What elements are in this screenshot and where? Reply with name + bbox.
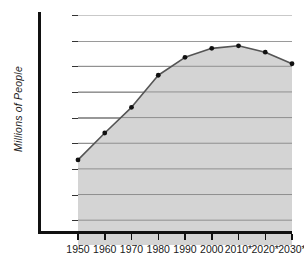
x-tick-mark-1970 bbox=[131, 234, 133, 240]
x-tick-mark-2020p bbox=[265, 234, 267, 240]
x-tick-mark-2010p bbox=[238, 234, 240, 240]
area-fill bbox=[78, 46, 292, 245]
x-tick-mark-1990 bbox=[184, 234, 186, 240]
y-axis-title: Millions of People bbox=[12, 39, 24, 179]
data-point-1980 bbox=[156, 73, 161, 78]
x-tick-mark-2000 bbox=[211, 234, 213, 240]
data-point-2010p bbox=[236, 43, 241, 48]
chart-screenshot: Millions of People 140130120110100908070… bbox=[0, 0, 304, 261]
x-axis-spine bbox=[38, 231, 292, 234]
x-tick-mark-1980 bbox=[158, 234, 160, 240]
y-axis-spine bbox=[38, 12, 41, 233]
data-point-1950 bbox=[76, 158, 81, 163]
x-tick-mark-1950 bbox=[77, 234, 79, 240]
data-point-2020p bbox=[263, 50, 268, 55]
plot-area: 14013012011010090807060 bbox=[40, 14, 292, 233]
x-tick-label-2030p: 2030* bbox=[272, 243, 304, 255]
data-point-1970 bbox=[129, 105, 134, 110]
x-tick-mark-1960 bbox=[104, 234, 106, 240]
data-point-2030p bbox=[290, 61, 295, 66]
plot-inner: 14013012011010090807060 bbox=[40, 14, 292, 233]
series-graphic bbox=[40, 14, 292, 249]
x-tick-mark-2030p bbox=[291, 234, 293, 240]
data-point-1990 bbox=[183, 55, 188, 60]
data-point-2000 bbox=[209, 46, 214, 51]
data-point-1960 bbox=[102, 131, 107, 136]
